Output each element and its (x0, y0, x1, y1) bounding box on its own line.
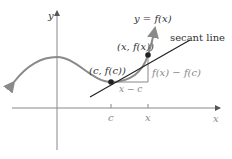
point-x-fx (145, 52, 151, 58)
curve-label: y = f(x) (134, 14, 172, 24)
y-axis-label: y (48, 11, 54, 21)
point-c-fc-label: (c, f(c)) (89, 66, 126, 76)
diagram-canvas (0, 0, 232, 159)
point-c-fc (108, 79, 114, 85)
function-curve (14, 28, 155, 82)
secant-line-label: secant line (170, 33, 225, 43)
tick-c-label: c (108, 113, 114, 123)
tick-x-label: x (145, 113, 151, 123)
rise-label: f(x) − f(c) (152, 68, 201, 78)
secant-diagram: y x y = f(x) secant line (x, f(x)) (c, f… (0, 0, 232, 159)
x-axis-label: x (213, 114, 219, 124)
point-x-fx-label: (x, f(x)) (117, 42, 154, 52)
run-label: x − c (119, 85, 142, 94)
